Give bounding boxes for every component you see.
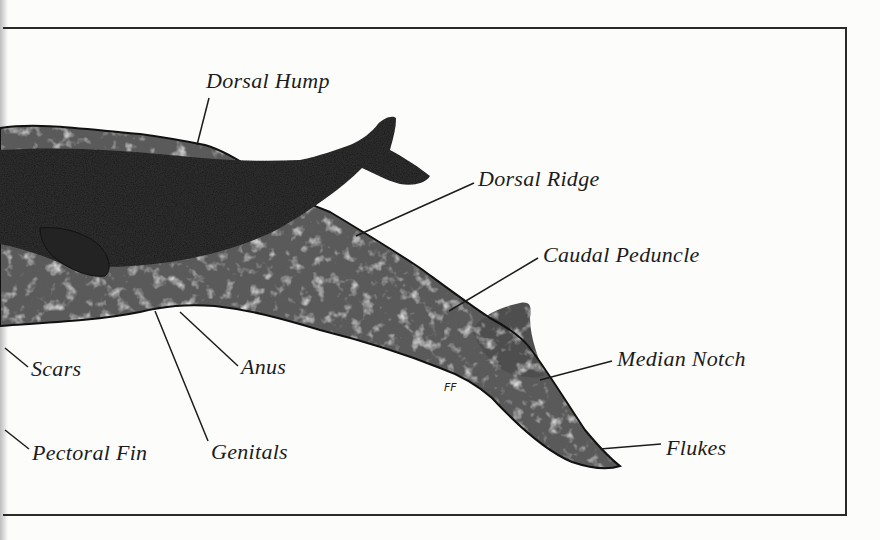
label-dorsal-ridge: Dorsal Ridge bbox=[478, 168, 600, 190]
leader-pectoral-fin bbox=[5, 430, 29, 449]
leader-dorsal-hump bbox=[197, 98, 209, 145]
leader-anus bbox=[180, 312, 238, 366]
label-anus: Anus bbox=[241, 356, 286, 378]
label-dorsal-hump: Dorsal Hump bbox=[206, 70, 330, 92]
leader-median-notch bbox=[540, 361, 612, 380]
label-caudal-peduncle: Caudal Peduncle bbox=[543, 244, 700, 266]
label-scars: Scars bbox=[31, 358, 81, 380]
whale-anatomy-figure: Dorsal Hump Dorsal Ridge Caudal Peduncle… bbox=[0, 0, 880, 540]
leader-scars bbox=[5, 348, 28, 367]
label-flukes: Flukes bbox=[666, 437, 726, 459]
label-genitals: Genitals bbox=[211, 441, 288, 463]
label-pectoral-fin: Pectoral Fin bbox=[32, 442, 147, 464]
artist-monogram: FF bbox=[444, 382, 457, 393]
label-median-notch: Median Notch bbox=[617, 348, 746, 370]
leader-flukes bbox=[600, 444, 661, 449]
leader-dorsal-ridge bbox=[356, 183, 474, 236]
